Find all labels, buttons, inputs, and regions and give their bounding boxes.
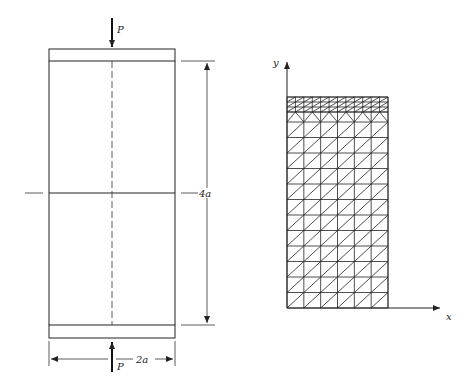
bottom-load-label: P [116,361,124,372]
finite-element-mesh [287,97,388,308]
specimen-diagram: P P 4a 2a [25,18,215,372]
top-plate [49,49,175,61]
y-axis-label: y [272,57,279,68]
fe-mesh-diagram: y x [272,57,452,322]
bottom-plate [49,325,175,338]
height-dimension-label: 4a [198,188,211,199]
figure-canvas: P P 4a 2a y x [0,0,474,386]
width-dimension-label: 2a [135,354,148,365]
x-axis-label: x [446,311,452,322]
top-load-label: P [116,24,124,35]
